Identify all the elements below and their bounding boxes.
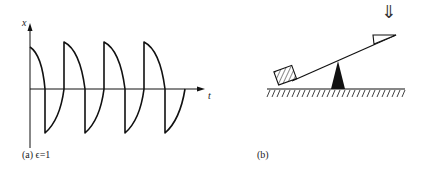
y-axis-arrow-icon [28, 23, 33, 31]
panel-a-caption: (a) ϵ=1 [22, 149, 50, 160]
panel-b-diagram [267, 35, 405, 97]
wedge-triangle [373, 35, 396, 44]
panel-a-plot [28, 23, 206, 148]
fulcrum-triangle [331, 61, 345, 89]
waveform-curve [30, 42, 185, 133]
hatched-block [274, 65, 297, 85]
down-force-arrow-icon: ⇓ [381, 1, 396, 22]
x-axis-label: t [208, 90, 211, 101]
y-axis-label: x [22, 17, 26, 28]
ground-hatching [267, 90, 405, 97]
figure-canvas [0, 0, 424, 172]
x-axis-arrow-icon [197, 87, 205, 92]
panel-b-caption: (b) [257, 149, 269, 160]
